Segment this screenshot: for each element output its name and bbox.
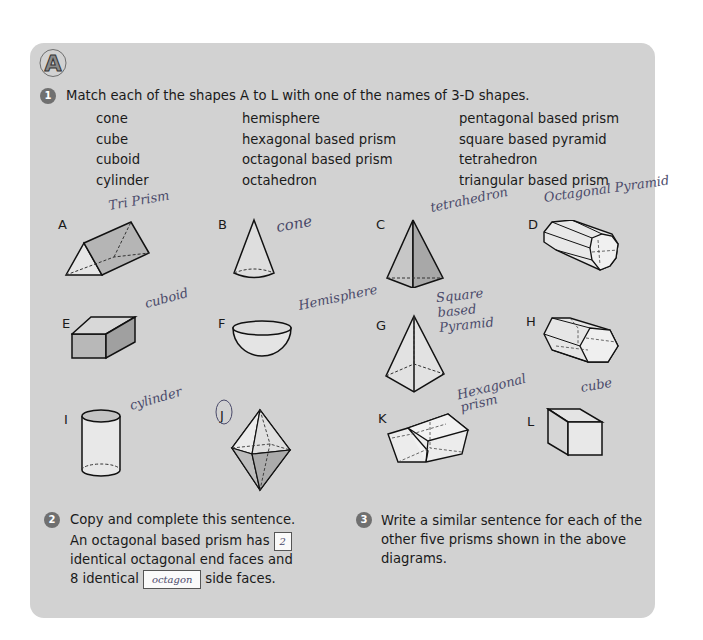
blank-1-box[interactable]: 2 (274, 532, 292, 551)
question-2-line-2: identical octagonal end faces and (70, 550, 293, 569)
names-column-2: hemisphere hexagonal based prism octagon… (242, 109, 396, 191)
question-2-prompt: Copy and complete this sentence. (70, 511, 295, 528)
shape-name: octahedron (242, 171, 396, 192)
hexagonal-prism-icon (542, 316, 620, 366)
shape-label-d: D (528, 217, 538, 232)
blank-2-box[interactable]: octagon (143, 570, 201, 589)
shape-name: cuboid (96, 150, 149, 171)
cuboid-icon (71, 316, 141, 361)
pentagonal-prism-icon (386, 406, 471, 466)
cone-icon (230, 218, 280, 283)
names-column-3: pentagonal based prism square based pyra… (459, 109, 619, 191)
shape-name: square based pyramid (459, 130, 619, 151)
octahedron-icon (230, 408, 292, 493)
svg-text:A: A (44, 51, 61, 76)
section-a-badge: A (38, 48, 68, 78)
shape-label-e: E (62, 316, 70, 331)
question-1-number: 1 (40, 88, 56, 104)
tetrahedron-icon (385, 218, 450, 288)
sentence-part: An octagonal based prism has (70, 533, 270, 548)
octagonal-prism-icon (540, 220, 620, 275)
question-3-line-3: diagrams. (381, 549, 447, 568)
shape-name: cylinder (96, 171, 149, 192)
hemisphere-icon (231, 318, 293, 360)
names-column-1: cone cube cuboid cylinder (96, 109, 149, 191)
shape-label-l: L (527, 414, 534, 429)
question-2-line-3: 8 identical octagon side faces. (70, 569, 276, 589)
question-2-line-1: An octagonal based prism has 2 (70, 531, 292, 551)
question-1-prompt: Match each of the shapes A to L with one… (66, 87, 530, 104)
shape-label-h: H (526, 314, 536, 329)
question-3-line-1: Write a similar sentence for each of the (381, 511, 642, 530)
shape-name: hexagonal based prism (242, 130, 396, 151)
sentence-part: side faces. (205, 571, 275, 586)
cylinder-icon (80, 408, 122, 480)
shape-label-b: B (218, 217, 227, 232)
question-3-line-2: other five prisms shown in the above (381, 530, 626, 549)
sentence-part: 8 identical (70, 571, 139, 586)
cube-icon (546, 408, 606, 458)
shape-label-f: F (218, 316, 225, 331)
shape-label-c: C (376, 217, 385, 232)
question-3-number: 3 (356, 512, 372, 528)
triangular-prism-icon (64, 215, 154, 280)
shape-name: tetrahedron (459, 150, 619, 171)
section-letter-icon: A (38, 48, 68, 78)
shape-name: hemisphere (242, 109, 396, 130)
shape-label-i: I (64, 412, 68, 427)
handwritten-answer-g: Square based Pyramid (435, 283, 509, 335)
shape-name: octagonal based prism (242, 150, 396, 171)
shape-name: cone (96, 109, 149, 130)
shape-name: pentagonal based prism (459, 109, 619, 130)
shape-name: cube (96, 130, 149, 151)
question-2-number: 2 (44, 512, 60, 528)
